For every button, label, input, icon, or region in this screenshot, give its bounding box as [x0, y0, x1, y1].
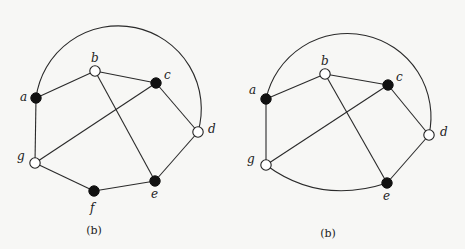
caption-right: (b): [320, 227, 336, 240]
vertex-label-a: a: [20, 90, 27, 104]
edge-d-e: [155, 132, 198, 181]
curved-edge-g-e: [266, 165, 387, 191]
edge-b-e: [325, 74, 387, 183]
vertex-g: [261, 160, 271, 170]
vertex-c: [151, 78, 161, 88]
edge-d-e: [387, 135, 429, 183]
figure-right-graph: abcdeg: [247, 33, 448, 203]
vertex-c: [383, 80, 393, 90]
vertex-e: [382, 178, 392, 188]
vertex-label-c: c: [164, 68, 171, 82]
vertex-b: [320, 69, 330, 79]
edge-a-b: [266, 74, 325, 99]
vertex-b: [90, 66, 100, 76]
edge-g-a: [35, 98, 36, 163]
vertex-label-e: e: [383, 189, 390, 203]
edge-c-g: [35, 83, 156, 163]
edge-b-c: [95, 71, 156, 83]
vertex-a: [31, 93, 41, 103]
vertex-label-b: b: [321, 54, 329, 68]
edge-c-d: [156, 83, 198, 132]
vertex-label-g: g: [247, 152, 255, 166]
edge-a-b: [36, 71, 95, 98]
vertex-a: [261, 94, 271, 104]
edge-b-e: [95, 71, 155, 181]
vertex-label-g: g: [17, 149, 25, 163]
figure-left-graph: abcdefg: [17, 26, 216, 215]
edge-e-f: [94, 181, 155, 191]
edge-f-g: [35, 163, 94, 191]
vertex-label-f: f: [89, 201, 97, 215]
vertex-label-b: b: [91, 51, 99, 65]
vertex-e: [150, 176, 160, 186]
vertex-d: [193, 127, 203, 137]
vertex-label-d: d: [440, 125, 448, 139]
vertex-d: [424, 130, 434, 140]
vertex-label-a: a: [249, 83, 256, 97]
vertex-g: [30, 158, 40, 168]
edge-b-c: [325, 74, 388, 85]
graph-diagram-canvas: abcdefg abcdeg (b) (b): [0, 0, 465, 249]
vertex-label-d: d: [208, 122, 216, 136]
caption-left: (b): [86, 224, 102, 237]
vertex-f: [89, 186, 99, 196]
edge-c-d: [388, 85, 429, 135]
vertex-label-e: e: [151, 187, 158, 201]
vertex-label-c: c: [396, 70, 403, 84]
arc-edge-a-d: [266, 33, 431, 135]
arc-edge-a-d: [36, 26, 201, 132]
